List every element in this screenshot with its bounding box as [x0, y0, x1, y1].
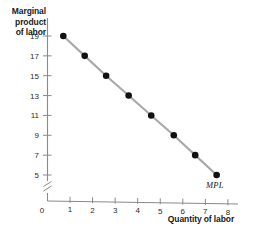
data-point-marker: [125, 92, 132, 99]
data-point-marker: [60, 33, 67, 40]
data-point-marker: [148, 112, 155, 119]
x-axis-title: Quantity of labor: [150, 214, 252, 224]
y-tick-label: 15: [30, 72, 39, 81]
y-tick-label: 13: [30, 92, 39, 101]
y-axis-break-icon: [44, 182, 52, 192]
mpl-series-label: MPL: [205, 180, 224, 190]
chart-figure: Marginal product of labor Quantity of la…: [0, 0, 255, 235]
y-tick-labels: 5791113151719: [30, 32, 39, 180]
data-point-marker: [192, 152, 199, 159]
y-axis: 5791113151719: [30, 18, 51, 201]
x-tick-label: 3: [113, 206, 118, 215]
x-tick-marks: [70, 197, 228, 205]
mpl-series: [60, 33, 220, 179]
y-tick-label: 11: [31, 111, 40, 120]
data-point-marker: [81, 53, 88, 60]
y-tick-label: 7: [35, 151, 40, 160]
x-tick-label: 2: [90, 206, 95, 215]
origin-label: 0: [40, 206, 45, 215]
data-point-marker: [103, 72, 110, 79]
y-tick-label: 9: [35, 131, 40, 140]
x-tick-label: 1: [68, 205, 73, 214]
y-axis-title: Marginal product of labor: [2, 6, 46, 38]
x-axis-line: [48, 201, 239, 204]
y-tick-label: 17: [30, 52, 39, 61]
y-axis-title-line-3: of labor: [2, 27, 46, 38]
y-tick-label: 5: [35, 171, 40, 180]
y-axis-title-line-2: product: [2, 17, 46, 28]
y-axis-title-line-1: Marginal: [2, 6, 46, 17]
data-point-marker: [170, 132, 177, 139]
data-point-marker: [213, 172, 220, 179]
x-tick-label: 4: [135, 206, 140, 215]
